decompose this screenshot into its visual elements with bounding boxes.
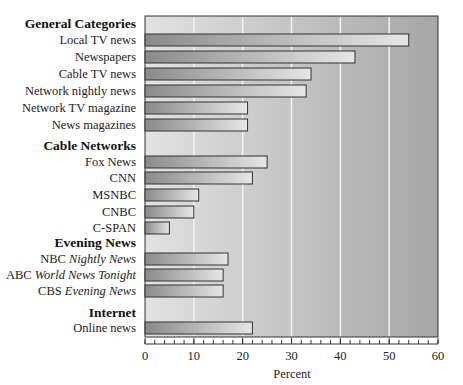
tick-label: 20: [236, 349, 249, 363]
category-label: Network TV magazine: [22, 101, 137, 115]
tick-label: 10: [188, 349, 201, 363]
bar: [145, 269, 223, 281]
bar: [145, 156, 267, 168]
tick-label: 30: [285, 349, 298, 363]
category-label: MSNBC: [92, 188, 136, 202]
tick-label: 50: [383, 349, 396, 363]
category-labels: General CategoriesLocal TV newsNewspaper…: [6, 16, 137, 335]
bar: [145, 34, 409, 46]
group-header: Internet: [89, 305, 137, 320]
bar: [145, 102, 248, 114]
category-label: CNBC: [102, 205, 136, 219]
tick-label: 40: [334, 349, 347, 363]
bar: [145, 85, 306, 97]
bar: [145, 206, 194, 218]
bar: [145, 51, 355, 63]
bar: [145, 119, 248, 131]
bar: [145, 322, 252, 334]
group-header: Cable Networks: [43, 138, 136, 153]
bar: [145, 253, 228, 265]
category-label: Online news: [73, 321, 136, 335]
bar: [145, 222, 169, 234]
tick-label: 60: [432, 349, 445, 363]
bar: [145, 189, 199, 201]
x-axis: 0102030405060: [142, 338, 444, 363]
tick-label: 0: [142, 349, 148, 363]
category-label: ABC World News Tonight: [6, 268, 137, 282]
category-label: Cable TV news: [59, 67, 136, 81]
category-label: C-SPAN: [93, 221, 136, 235]
bar: [145, 172, 252, 184]
group-header: General Categories: [25, 16, 136, 31]
category-label: Fox News: [85, 155, 136, 169]
x-axis-label: Percent: [273, 367, 311, 381]
group-header: Evening News: [55, 235, 136, 250]
bar: [145, 285, 223, 297]
category-label: Newspapers: [75, 50, 136, 64]
category-label: Local TV news: [59, 33, 136, 47]
category-label: Network nightly news: [25, 84, 136, 98]
bar: [145, 68, 311, 80]
category-label: CNN: [110, 171, 136, 185]
category-label: CBS Evening News: [38, 284, 136, 298]
category-label: NBC Nightly News: [40, 252, 136, 266]
category-label: News magazines: [52, 118, 136, 132]
bar-chart: General CategoriesLocal TV newsNewspaper…: [0, 0, 463, 385]
